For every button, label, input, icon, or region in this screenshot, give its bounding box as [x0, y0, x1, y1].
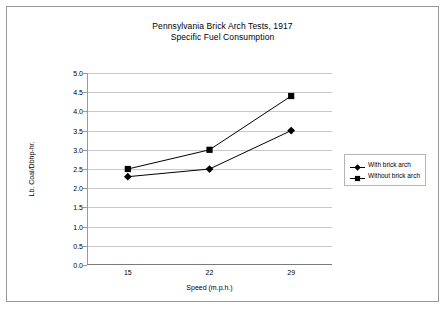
legend-marker-icon — [349, 173, 366, 184]
x-axis-tick-label: 15 — [124, 269, 132, 277]
y-axis-tick-label: 2.0 — [49, 185, 83, 192]
square-marker-icon — [288, 93, 294, 99]
y-axis-tick-label: 1.5 — [49, 204, 83, 211]
y-axis-tick-label: 3.5 — [49, 127, 83, 134]
chart-title-line-2: Specific Fuel Consumption — [7, 32, 438, 43]
y-axis-tick-label: 3.0 — [49, 146, 83, 153]
square-marker-icon — [125, 166, 131, 172]
legend-label: With brick arch — [366, 161, 411, 169]
y-axis-tick-label: 5.0 — [49, 70, 83, 77]
chart-title: Pennsylvania Brick Arch Tests, 1917 Spec… — [7, 21, 438, 43]
square-marker-icon — [206, 147, 212, 153]
legend-item[interactable]: Without brick arch — [349, 170, 420, 181]
y-axis-tick-labels: 5.04.54.03.53.02.52.01.51.00.50.0 — [47, 73, 83, 265]
y-axis-tick-label: 0.5 — [49, 242, 83, 249]
y-axis-tick-label: 4.5 — [49, 89, 83, 96]
legend-marker-swatch — [349, 159, 366, 170]
series-line — [128, 96, 291, 169]
diamond-marker-icon — [124, 173, 132, 181]
y-axis-tick-label: 4.0 — [49, 108, 83, 115]
series-plot — [87, 73, 332, 265]
diamond-marker-icon — [287, 127, 295, 135]
series-diamond — [124, 127, 295, 181]
legend-marker-swatch — [349, 170, 366, 181]
diamond-marker-icon — [206, 165, 214, 173]
y-axis-title: Lb. Coal/Dbhp-hr. — [28, 142, 36, 197]
x-axis-tick-label: 22 — [206, 269, 214, 277]
legend-label: Without brick arch — [366, 172, 420, 180]
y-axis-tick-label: 2.5 — [49, 166, 83, 173]
y-axis-title-container: Lb. Coal/Dbhp-hr. — [25, 73, 39, 265]
x-axis-tick-labels: 152229 — [87, 269, 332, 281]
chart-title-line-1: Pennsylvania Brick Arch Tests, 1917 — [7, 21, 438, 32]
plot-area — [87, 73, 332, 265]
series-square — [125, 93, 295, 172]
legend-item[interactable]: With brick arch — [349, 159, 420, 170]
square-marker-icon — [355, 176, 360, 181]
x-axis-tick-label: 29 — [287, 269, 295, 277]
y-axis-tick-mark — [83, 265, 87, 266]
y-axis-tick-label: 0.0 — [49, 262, 83, 269]
chart-legend: With brick archWithout brick arch — [344, 154, 426, 186]
x-axis-title: Speed (m.p.h.) — [87, 284, 332, 292]
y-axis-tick-label: 1.0 — [49, 223, 83, 230]
chart-page-frame: Pennsylvania Brick Arch Tests, 1917 Spec… — [6, 6, 439, 302]
